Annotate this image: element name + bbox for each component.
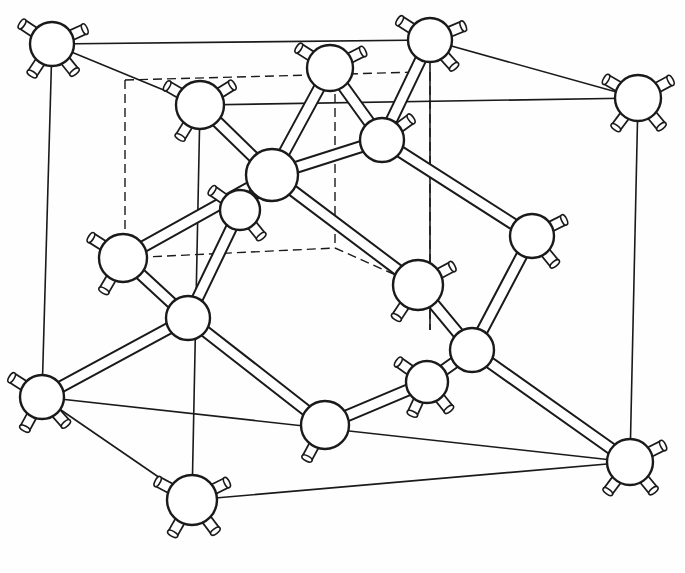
bond xyxy=(272,175,418,285)
cube-edge xyxy=(200,98,638,105)
bond xyxy=(188,318,325,425)
atom xyxy=(17,18,90,79)
hidden-edge xyxy=(125,72,420,80)
bond xyxy=(472,350,630,462)
hidden-edge xyxy=(125,248,335,258)
atom xyxy=(450,328,494,372)
atom xyxy=(602,439,668,497)
cube-edge xyxy=(630,98,638,462)
atom xyxy=(301,401,349,463)
atom xyxy=(294,42,368,91)
atom xyxy=(86,231,147,295)
bond xyxy=(42,318,188,397)
bond xyxy=(382,140,532,236)
cube-edge xyxy=(430,40,638,98)
atom xyxy=(394,15,467,73)
atom xyxy=(166,296,210,340)
atom xyxy=(601,73,676,133)
diamond-cubic-lattice xyxy=(0,0,685,573)
atom xyxy=(153,475,232,539)
crystal-diagram xyxy=(0,0,685,573)
cube-edge xyxy=(52,40,430,44)
atom xyxy=(246,149,298,201)
cube-edge xyxy=(42,44,52,397)
cube-edge xyxy=(192,462,630,500)
